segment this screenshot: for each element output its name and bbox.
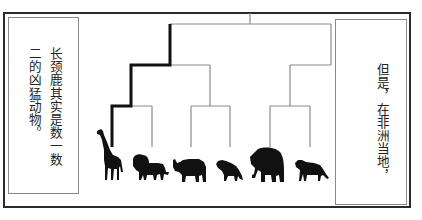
- highlighted-path: [112, 24, 170, 147]
- tree-branches: [112, 13, 331, 147]
- caption-box-right: 但是，在非洲当地，: [335, 19, 407, 205]
- caption-left-line-2: 二的凶猛动物。: [27, 47, 40, 139]
- elephant-icon: [250, 148, 284, 182]
- caption-right-line-1: 但是，在非洲当地，: [375, 63, 388, 182]
- giraffe-icon: [97, 129, 123, 180]
- caption-left-line-1: 长颈鹿其实是数一数: [48, 47, 61, 166]
- rhinoceros-icon: [173, 159, 206, 182]
- caption-box-left: 长颈鹿其实是数一数 二的凶猛动物。: [8, 17, 79, 194]
- cheetah-icon: [295, 160, 329, 181]
- lion-icon: [133, 154, 169, 180]
- hyena-icon: [216, 160, 243, 181]
